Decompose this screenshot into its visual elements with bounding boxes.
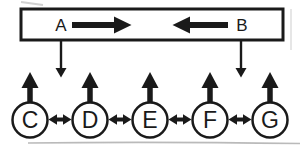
chain-node-d: D: [73, 103, 108, 138]
chain-node-f: F: [193, 103, 228, 138]
node-a-label: A: [55, 16, 67, 35]
double-arrow-icon: [49, 114, 72, 124]
node-g-label: G: [261, 107, 279, 133]
down-arrow-b-icon: [236, 41, 247, 78]
chain-node-c: C: [13, 103, 48, 138]
up-arrow-icon: [202, 72, 219, 103]
node-c-label: C: [22, 107, 39, 133]
down-arrow-a-icon: [56, 41, 67, 78]
node-e-label: E: [142, 107, 157, 133]
double-arrow-icon: [229, 114, 252, 124]
up-arrow-icon: [142, 72, 159, 103]
node-f-label: F: [203, 107, 217, 133]
double-arrow-icon: [109, 114, 132, 124]
double-arrow-icon: [169, 114, 192, 124]
chain-node-e: E: [133, 103, 168, 138]
up-arrow-icon: [22, 72, 39, 103]
diagram-canvas: A B: [0, 0, 304, 146]
node-d-label: D: [82, 107, 99, 133]
scan-artifact: [21, 2, 43, 5]
chain-node-g: G: [253, 103, 288, 138]
scan-artifact: [28, 142, 300, 143]
node-b-label: B: [236, 16, 247, 35]
up-arrow-icon: [262, 72, 279, 103]
flow-diagram: A B: [0, 0, 304, 146]
up-arrow-icon: [82, 72, 99, 103]
